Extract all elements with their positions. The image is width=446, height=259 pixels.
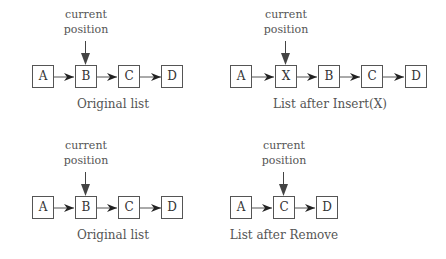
list-node: C	[361, 65, 383, 88]
list-node-current: B	[75, 65, 97, 88]
pointer-label-line2: position	[258, 154, 310, 167]
list-node-current: C	[273, 196, 295, 219]
pointer-label-line1: current	[260, 8, 312, 21]
list-node: A	[32, 65, 54, 88]
list-node: D	[316, 196, 338, 219]
pointer-label-line1: current	[60, 8, 112, 21]
list-node: A	[230, 65, 252, 88]
list-node-current: B	[75, 196, 97, 219]
list-node: B	[318, 65, 340, 88]
pointer-label-line1: current	[258, 139, 310, 152]
pointer-label-line2: position	[60, 154, 112, 167]
list-node: A	[32, 196, 54, 219]
pointer-label-line2: position	[260, 23, 312, 36]
list-node: A	[230, 196, 252, 219]
list-node: C	[118, 196, 140, 219]
caption: Original list	[58, 97, 168, 111]
connector-layer	[0, 0, 446, 259]
list-node: D	[161, 65, 183, 88]
list-node: C	[118, 65, 140, 88]
caption: List after Insert(X)	[270, 97, 390, 111]
pointer-label-line2: position	[60, 23, 112, 36]
pointer-label-line1: current	[60, 139, 112, 152]
list-node: D	[405, 65, 427, 88]
list-node-current: X	[275, 65, 297, 88]
list-node: D	[161, 196, 183, 219]
caption: List after Remove	[228, 228, 340, 242]
caption: Original list	[58, 228, 168, 242]
